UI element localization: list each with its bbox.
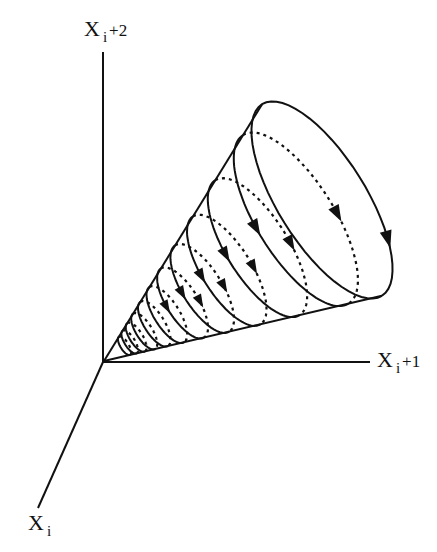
- axis-label-diagonal-sub: i: [47, 523, 51, 539]
- axis-label-horizontal-base: X: [377, 347, 393, 372]
- spiral-front-arc: [147, 287, 185, 343]
- direction-arrow: [216, 278, 227, 293]
- direction-arrow: [194, 268, 206, 283]
- axis-label-vertical-sub: i: [103, 29, 107, 45]
- direction-arrow: [247, 218, 260, 236]
- spiral-front-arc: [138, 302, 168, 347]
- cone-phase-diagram: [0, 0, 437, 552]
- axis-label-horizontal-suffix: +1: [402, 352, 420, 371]
- direction-arrow: [380, 230, 392, 249]
- direction-arrow: [328, 204, 341, 222]
- direction-arrow: [159, 299, 170, 313]
- cone-rim: [252, 101, 393, 298]
- spiral-front-arc: [126, 323, 145, 352]
- cone-trajectory: [104, 101, 393, 361]
- axis-label-diagonal-base: X: [28, 510, 44, 535]
- axis-label-horizontal-sub: i: [396, 360, 400, 376]
- axis-label-vertical: Xi+2: [84, 18, 127, 40]
- axis-label-diagonal: Xi: [28, 512, 53, 534]
- direction-arrow: [217, 246, 229, 262]
- axis-label-horizontal: Xi+1: [377, 349, 420, 371]
- axis-label-vertical-base: X: [84, 16, 100, 41]
- axis-label-vertical-suffix: +2: [109, 21, 127, 40]
- diagram-canvas: Xi+2 Xi+1 Xi: [0, 0, 437, 552]
- spiral-front-arc: [234, 135, 349, 306]
- direction-arrow: [246, 259, 257, 275]
- direction-arrow: [175, 285, 186, 300]
- direction-arrow: [193, 293, 203, 307]
- spiral-front-arc: [131, 314, 155, 350]
- axis-diagonal: [38, 362, 103, 508]
